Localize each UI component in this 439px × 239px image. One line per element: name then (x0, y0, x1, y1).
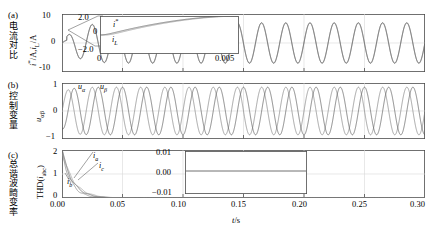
panel-c-inset-ytick-top: 0.01 (156, 147, 171, 157)
panel-c-ytick-2: 2 (53, 146, 57, 156)
panel-a-inset-ytick-bot: −2.0 (78, 44, 93, 54)
panel-b-curve-label-ualpha: uα (78, 82, 85, 93)
panel-b-ytick-neg1: −1 (46, 131, 55, 141)
panel-c-ylabel: THD(iabc) (35, 165, 47, 199)
panel-b-curve-label-ubeta: uβ (100, 82, 107, 93)
panel-c-inset (185, 151, 307, 194)
panel-a-ytick-neg10: -10 (39, 62, 50, 72)
panel-a-tag: (a) (6, 10, 20, 20)
x-axis-title: t/s (232, 215, 240, 225)
xtick-2: 0.10 (171, 199, 186, 209)
xtick-1: 0.05 (110, 199, 125, 209)
xtick-6: 0.30 (410, 199, 425, 209)
panel-a-inset-xtick-0: 0 (97, 53, 101, 63)
panel-b-ytick-0: 0 (53, 105, 57, 115)
panel-b-plot (62, 83, 425, 139)
xtick-3: 0.15 (231, 199, 246, 209)
xtick-4: 0.20 (292, 199, 307, 209)
panel-a-inset-ytick-top: 2.0 (78, 12, 89, 22)
panel-a-ytick-10: 10 (42, 10, 51, 20)
panel-c-inset-ytick-bot: −0.01 (152, 187, 172, 197)
panel-c-curve-label-ia: ia (93, 151, 98, 162)
panel-c-cn-label: 总谐波畸变率 (7, 160, 19, 218)
panel-b-cn-label: 控制变量 (7, 92, 19, 130)
figure-root: (a) 电流对比 i*/A,iL/A 10 0 -10 2.0 0 −2.0 0… (0, 0, 439, 239)
panel-a-inset-ytick-mid: 0 (93, 26, 97, 36)
panel-c-ytick-1: 1 (53, 168, 57, 178)
panel-a-inset (100, 16, 239, 54)
panel-a-cn-label: 电流对比 (7, 22, 19, 60)
panel-b-tag: (b) (6, 80, 20, 90)
xtick-0: 0.00 (50, 199, 65, 209)
panel-a-inset-curve-label-il: iL (112, 35, 118, 46)
panel-c-curve-label-ib: ib (67, 177, 72, 188)
panel-b-ytick-1: 1 (53, 79, 57, 89)
panel-a-inset-curve-label-iref: i* (113, 17, 118, 29)
panel-a-ytick-0: 0 (51, 36, 55, 46)
panel-c-curve-label-ic: ic (99, 161, 104, 172)
panel-c-inset-ytick-mid: 0.00 (156, 167, 171, 177)
panel-b-ylabel: uαβ (33, 111, 45, 122)
xtick-5: 0.25 (352, 199, 367, 209)
panel-a-inset-xtick-max: 0.005 (215, 53, 234, 63)
panel-a-ylabel: i*/A,iL/A (26, 35, 40, 66)
